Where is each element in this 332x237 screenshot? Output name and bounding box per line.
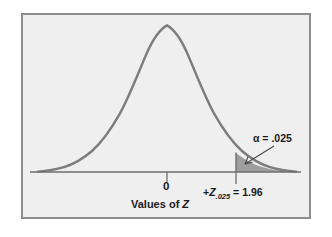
- x-axis-title-variable: Z: [181, 198, 190, 210]
- critical-label-equals: = 1.96: [230, 186, 263, 198]
- zero-tick-label: 0: [163, 180, 169, 192]
- critical-label-subscript: .025: [216, 192, 231, 201]
- normal-distribution-figure: α = .025 0 Values of Z +Z.025 = 1.96: [0, 0, 332, 237]
- alpha-label: α = .025: [253, 132, 292, 144]
- x-axis-title: Values of Z: [131, 198, 190, 210]
- x-axis-title-prefix: Values of: [131, 198, 182, 210]
